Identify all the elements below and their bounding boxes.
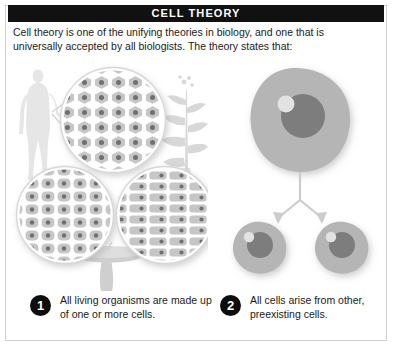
daughter-cell-right [315, 222, 368, 274]
figure-title-bar: CELL THEORY [8, 5, 384, 22]
parent-cell [250, 68, 349, 172]
cell-division-diagram [208, 60, 388, 292]
statement-1: 1 All living organisms are made up of on… [30, 294, 220, 321]
daughter-right-vacuole [326, 232, 336, 242]
statement-2: 2 All cells arise from other, preexistin… [220, 294, 395, 321]
illustration-area [8, 60, 388, 292]
statement-1-badge: 1 [30, 295, 51, 316]
human-silhouette [19, 69, 64, 180]
intro-paragraph: Cell theory is one of the unifying theor… [13, 26, 375, 53]
statement-2-text: All cells arise from other, preexisting … [250, 294, 395, 321]
statement-1-text: All living organisms are made up of one … [60, 294, 220, 321]
daughter-left-vacuole [244, 232, 254, 242]
panel-organisms [8, 60, 208, 292]
organisms-diagram [8, 60, 208, 292]
panel-cell-division [208, 60, 388, 292]
division-arrows [273, 172, 327, 224]
magnified-circle-animal-cells [60, 67, 176, 182]
daughter-cell-left [233, 222, 286, 274]
parent-vacuole [278, 96, 295, 113]
cell-theory-figure: CELL THEORY Cell theory is one of the un… [0, 0, 397, 354]
page-title: CELL THEORY [151, 8, 240, 19]
statements-row: 1 All living organisms are made up of on… [8, 294, 384, 336]
statement-2-badge: 2 [220, 295, 241, 316]
